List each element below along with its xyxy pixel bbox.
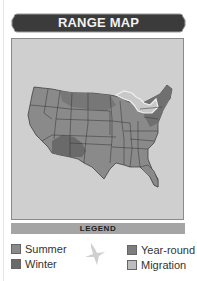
range-map-header: RANGE MAP — [11, 13, 186, 33]
legend-item-year-round: Year-round — [127, 244, 195, 256]
winter-swatch — [11, 259, 21, 269]
us-range-map — [12, 39, 185, 221]
legend-item-summer: Summer — [11, 243, 67, 255]
bird-silhouette-icon — [83, 241, 109, 271]
legend-label-migration: Migration — [141, 259, 186, 271]
legend-item-winter: Winter — [11, 258, 57, 270]
summer-swatch — [11, 244, 21, 254]
migration-swatch — [127, 260, 137, 270]
legend-title-bar: LEGEND — [11, 223, 185, 234]
legend-item-migration: Migration — [127, 259, 186, 271]
legend-label-summer: Summer — [25, 243, 67, 255]
legend-label-year-round: Year-round — [141, 244, 195, 256]
legend-label-winter: Winter — [25, 258, 57, 270]
page-edge-line — [3, 0, 4, 281]
year-round-swatch — [127, 245, 137, 255]
range-map-panel — [11, 38, 184, 220]
florida — [140, 165, 158, 187]
header-title: RANGE MAP — [11, 13, 186, 33]
